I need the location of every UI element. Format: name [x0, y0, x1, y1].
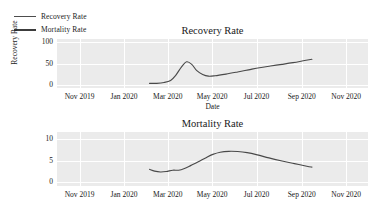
y-axis-tick-label: 0: [49, 81, 53, 89]
chart-panel-recovery-rate: Recovery Rate Recovery Rate 050100Nov 20…: [0, 24, 374, 112]
y-axis-label-recovery: Recovery Rate: [10, 15, 19, 71]
x-axis-tick-label: May 2020: [197, 190, 228, 199]
chart-panel-mortality-rate: Mortality Rate 0510Nov 2019Jan 2020Mar 2…: [0, 117, 374, 222]
figure: Recovery Rate Mortality Rate Recovery Ra…: [0, 0, 374, 222]
x-axis-tick-label: Jul 2020: [244, 190, 270, 199]
x-axis-tick-label: Mar 2020: [153, 92, 182, 101]
y-axis-tick-label: 50: [46, 60, 54, 68]
series-layer: [57, 132, 368, 186]
plot-area-recovery: 050100Nov 2019Jan 2020Mar 2020May 2020Ju…: [57, 39, 368, 88]
x-axis-tick-label: Jan 2020: [111, 92, 138, 101]
series-layer: [57, 39, 368, 88]
y-axis-tick-label: 100: [42, 38, 53, 46]
x-axis-tick-label: Jul 2020: [244, 92, 270, 101]
data-line-mortality-rate: [150, 151, 312, 172]
x-axis-tick-label: Nov 2020: [331, 92, 361, 101]
y-axis-tick-label: 10: [46, 135, 54, 143]
plot-area-mortality: 0510Nov 2019Jan 2020Mar 2020May 2020Jul …: [57, 132, 368, 186]
chart-title-recovery: Recovery Rate: [57, 24, 368, 37]
y-axis-tick-label: 0: [49, 178, 53, 186]
x-axis-tick-label: Sep 2020: [288, 92, 316, 101]
x-axis-tick-label: Nov 2019: [65, 92, 95, 101]
legend-label-recovery: Recovery Rate: [41, 12, 87, 21]
x-axis-tick-label: Nov 2020: [331, 190, 361, 199]
x-axis-tick-label: May 2020: [197, 92, 228, 101]
x-axis-tick-label: Jan 2020: [111, 190, 138, 199]
legend-item-recovery-rate: Recovery Rate: [14, 11, 134, 22]
chart-title-mortality: Mortality Rate: [57, 117, 368, 130]
x-axis-label-recovery: Date: [57, 102, 368, 111]
x-axis-tick-label: Nov 2019: [65, 190, 95, 199]
x-axis-tick-label: Mar 2020: [153, 190, 182, 199]
x-axis-tick-label: Sep 2020: [288, 190, 316, 199]
data-line-recovery-rate: [150, 59, 312, 83]
y-axis-tick-label: 5: [49, 157, 53, 165]
